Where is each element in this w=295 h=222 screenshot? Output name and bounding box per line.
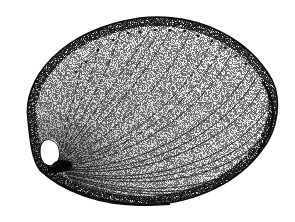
abalone-shell-illustration — [0, 0, 295, 222]
shell-body — [0, 0, 295, 222]
